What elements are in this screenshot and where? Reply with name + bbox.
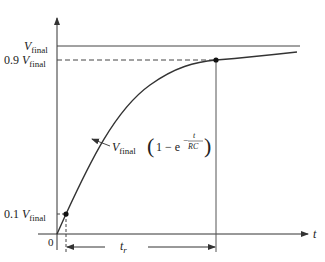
x-axis-label: t <box>313 227 317 241</box>
svg-text:t: t <box>193 131 196 140</box>
svg-text:): ) <box>204 133 211 158</box>
svg-text:Vfinal: Vfinal <box>112 140 136 156</box>
ten-percent-label: 0.1 Vfinal <box>4 207 46 223</box>
svg-text:(: ( <box>147 133 154 158</box>
ninety-percent-point <box>213 57 218 62</box>
rc-rise-time-diagram: Vfinal 0.9 Vfinal 0.1 Vfinal 0 t tr Vfin… <box>0 0 325 262</box>
origin-label: 0 <box>48 236 54 248</box>
ten-percent-point <box>63 211 68 216</box>
svg-text:RC: RC <box>187 142 199 151</box>
ninety-percent-label: 0.9 Vfinal <box>4 53 46 69</box>
svg-text:1 − e: 1 − e <box>156 140 180 154</box>
curve-equation: Vfinal ( 1 − e − t RC ) <box>112 131 211 158</box>
rise-time-label: tr <box>120 239 127 255</box>
